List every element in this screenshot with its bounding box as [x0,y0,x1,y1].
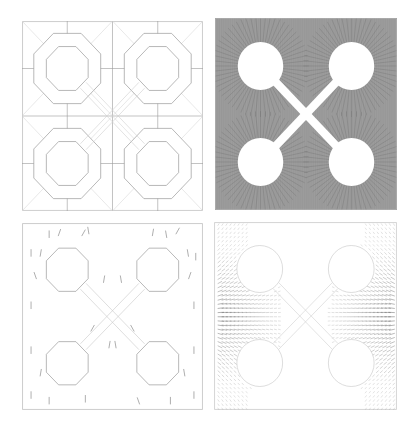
field-lines-plot [215,18,397,210]
mesh-panel [22,21,203,211]
mesh-plot [22,21,203,211]
field-lines-panel [215,18,397,210]
sparse-vector-plot [22,223,203,410]
sparse-vector-panel [22,223,203,410]
dense-vector-plot [214,222,397,410]
dense-vector-panel [214,222,397,410]
